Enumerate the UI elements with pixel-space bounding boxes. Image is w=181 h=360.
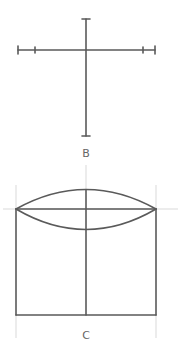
sketch-canvas: B C bbox=[0, 0, 181, 360]
figure-b-label: B bbox=[82, 147, 90, 160]
figure-c: C bbox=[3, 165, 178, 342]
figure-b: B bbox=[18, 19, 155, 160]
figure-c-label: C bbox=[82, 329, 90, 342]
